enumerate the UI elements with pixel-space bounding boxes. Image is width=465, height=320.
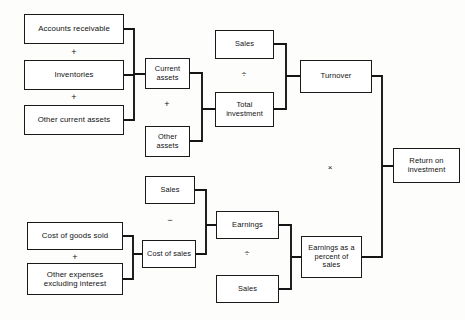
operator-minus-sales-cos: − (162, 212, 178, 228)
wire-turnover-inputs (274, 44, 300, 109)
roi-tree-diagram: Accounts receivableInventoriesOther curr… (0, 0, 465, 320)
node-cost-of-sales: Cost of sales (142, 240, 196, 268)
wire-roi-inputs (362, 76, 393, 257)
node-label-inventories: Inventories (52, 70, 95, 79)
node-label-other-current-assets: Other current assets (36, 115, 113, 124)
operator-multiply-turnover: × (322, 159, 338, 175)
wire-earnings-inputs (195, 190, 216, 254)
operator-divide-earn-sales: ÷ (239, 245, 255, 261)
wire-epsales-inputs (279, 225, 301, 289)
node-inventories: Inventories (24, 60, 124, 90)
node-other-current-assets: Other current assets (24, 105, 124, 135)
node-label-current-assets: Current assets (153, 65, 182, 82)
node-label-return-on-investment: Return on investment (406, 157, 448, 175)
node-accounts-receivable: Accounts receivable (24, 14, 124, 44)
node-label-sales-top: Sales (233, 40, 256, 49)
node-label-accounts-receivable: Accounts receivable (36, 24, 112, 33)
operator-plus-ca-oa: + (159, 96, 175, 112)
node-label-cost-of-goods-sold: Cost of goods sold (40, 231, 110, 240)
wire-total-investment-inputs (190, 73, 215, 141)
node-label-other-expenses: Other expenses excluding interest (42, 270, 108, 288)
node-total-investment: Total investment (215, 92, 274, 127)
node-label-cost-of-sales: Cost of sales (145, 250, 193, 259)
node-label-other-assets: Other assets (155, 133, 181, 150)
node-sales-top: Sales (215, 30, 274, 59)
node-label-sales-bottom: Sales (236, 285, 259, 294)
node-sales-mid: Sales (145, 176, 195, 204)
node-label-total-investment: Total investment (224, 101, 265, 118)
node-sales-bottom: Sales (216, 275, 279, 303)
node-earnings: Earnings (216, 211, 279, 239)
operator-plus-ar-inv: + (66, 44, 82, 60)
wire-current-assets-inputs (124, 29, 145, 120)
node-return-on-investment: Return on investment (393, 148, 460, 183)
wire-cost-of-sales-inputs (123, 236, 142, 279)
node-other-assets: Other assets (145, 126, 190, 157)
node-turnover: Turnover (300, 60, 372, 93)
node-label-earnings: Earnings (230, 221, 265, 230)
node-label-sales-mid: Sales (159, 186, 182, 195)
node-earnings-percent-sales: Earnings as a percent of sales (301, 236, 362, 278)
operator-divide-sales-ti: ÷ (236, 66, 252, 82)
node-cost-of-goods-sold: Cost of goods sold (27, 222, 123, 250)
operator-plus-inv-oca: + (66, 89, 82, 105)
node-current-assets: Current assets (145, 58, 190, 89)
node-label-earnings-percent-sales: Earnings as a percent of sales (306, 244, 357, 270)
node-other-expenses: Other expenses excluding interest (27, 263, 123, 295)
node-label-turnover: Turnover (319, 72, 354, 81)
